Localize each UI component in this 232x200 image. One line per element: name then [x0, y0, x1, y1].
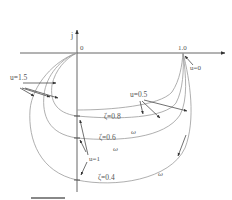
real-tick-label: 1.0 [178, 44, 187, 52]
label-omega-2: ω [113, 145, 118, 153]
label-omega-3: ω [158, 170, 163, 178]
label-u-1: u=1 [89, 155, 100, 163]
curve-inner [77, 53, 183, 110]
scale-bar [31, 197, 65, 199]
label-zeta-06: ζ=0.6 [99, 133, 116, 142]
label-u-0: u=0 [190, 64, 201, 72]
label-u-15: u=1.5 [10, 73, 28, 82]
nyquist-diagram: j 0 1.0 u=0 u=1.5 [0, 0, 232, 200]
label-u-05: u=0.5 [130, 90, 148, 99]
label-zeta-04: ζ=0.4 [98, 173, 115, 182]
label-zeta-08: ζ=0.8 [104, 112, 121, 121]
curve-zeta-06 [44, 53, 186, 139]
label-omega-1: ω [131, 128, 136, 136]
imag-axis-label: j [70, 31, 73, 40]
origin-label: 0 [80, 44, 84, 52]
